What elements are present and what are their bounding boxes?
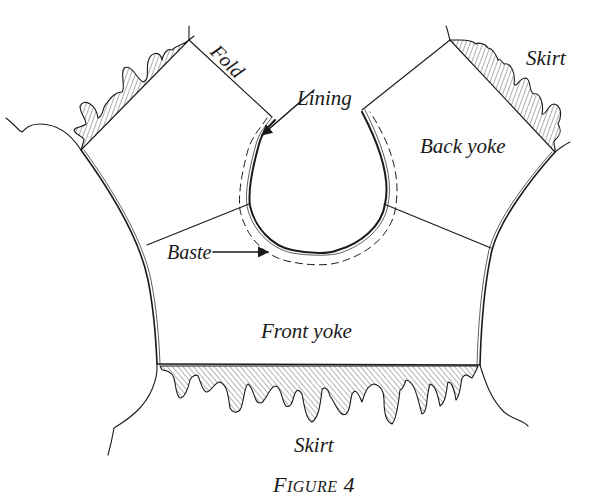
diagram-canvas — [0, 0, 609, 504]
figure-caption: Figure 4 — [273, 474, 355, 496]
caption-initial: F — [273, 472, 287, 497]
right-top-tick — [446, 26, 450, 40]
left-armhole-contour — [6, 118, 81, 150]
label-skirt-bottom: Skirt — [294, 435, 334, 456]
bottom-skirt-gathers — [160, 366, 478, 424]
left-side-seam — [81, 150, 157, 364]
left-shoulder-skirt-gathers — [74, 40, 189, 150]
right-lower-contour — [480, 365, 528, 426]
label-lining: Lining — [297, 88, 352, 109]
label-back-yoke: Back yoke — [420, 136, 506, 157]
back-yoke-shoulder-edge — [362, 40, 450, 110]
left-baste-seam — [147, 204, 249, 245]
right-armhole-contour — [555, 142, 570, 152]
label-baste: Baste — [167, 242, 211, 262]
left-lower-contour — [108, 364, 157, 455]
label-front-yoke: Front yoke — [261, 321, 352, 342]
right-baste-seam — [384, 204, 491, 248]
neckline — [249, 112, 386, 253]
right-side-seam — [480, 152, 555, 365]
yoke-diagram: Fold Lining Back yoke Skirt Baste Front … — [0, 0, 609, 504]
label-skirt-top: Skirt — [526, 48, 566, 69]
caption-smallcaps: igure — [287, 478, 337, 495]
front-yoke-bottom-seam — [157, 364, 480, 365]
left-yoke-tick — [189, 26, 194, 40]
caption-number: 4 — [343, 472, 355, 497]
